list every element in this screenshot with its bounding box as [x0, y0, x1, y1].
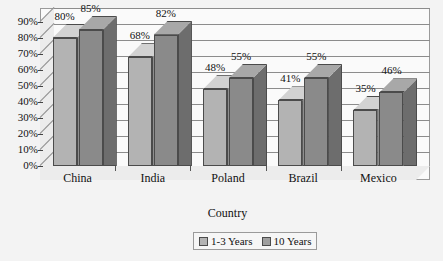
- x-axis-tick: [115, 166, 116, 171]
- bar-china-series2[interactable]: [79, 30, 103, 166]
- y-axis-tick-mark: [38, 150, 43, 151]
- x-axis-tick: [266, 166, 267, 171]
- bar-value-label: 41%: [280, 73, 300, 84]
- bar-brazil-series1[interactable]: [278, 100, 302, 166]
- y-axis-tick-label: 60%: [0, 64, 38, 75]
- bar-india-series2[interactable]: [154, 35, 178, 166]
- legend-swatch-icon-series2: [262, 237, 271, 246]
- y-axis-tick-label: 10%: [0, 144, 38, 155]
- y-axis-tick-mark: [38, 38, 43, 39]
- bar-side: [403, 78, 417, 166]
- bar-face: [304, 78, 328, 166]
- bar-china-series1[interactable]: [53, 38, 77, 166]
- bar-face: [229, 78, 253, 166]
- y-axis-tick-label: 80%: [0, 32, 38, 43]
- legend-label-series2: 10 Years: [274, 235, 312, 247]
- bar-value-label: 68%: [130, 30, 150, 41]
- y-axis-tick-mark: [38, 134, 43, 135]
- bar-value-label: 85%: [81, 3, 101, 14]
- bar-poland-series1[interactable]: [203, 89, 227, 166]
- legend-item-1: 1-3 Years: [199, 235, 253, 247]
- y-axis-tick-label: 70%: [0, 48, 38, 59]
- bar-side: [178, 21, 192, 166]
- bar-mexico-series2[interactable]: [379, 92, 403, 166]
- bar-value-label: 80%: [55, 11, 75, 22]
- bar-face: [154, 35, 178, 166]
- bar-value-label: 55%: [231, 51, 251, 62]
- bar-value-label: 55%: [306, 51, 326, 62]
- x-axis-tick: [190, 166, 191, 171]
- y-axis-tick-mark: [38, 70, 43, 71]
- y-axis-tick-mark: [38, 86, 43, 87]
- x-axis-category-label: Poland: [190, 172, 265, 185]
- bar-face: [53, 38, 77, 166]
- bar-face: [79, 30, 103, 166]
- bar-mexico-series1[interactable]: [353, 110, 377, 166]
- bar-side: [103, 16, 117, 166]
- bars-layer: 80%85%68%82%48%55%41%55%35%46%: [40, 8, 430, 180]
- chart-legend: 1-3 Years 10 Years: [193, 232, 317, 250]
- bar-india-series1[interactable]: [128, 57, 152, 166]
- y-axis-tick-mark: [38, 166, 43, 167]
- bar-value-label: 35%: [355, 83, 375, 94]
- y-axis-tick-label: 90%: [0, 16, 38, 27]
- legend-item-2: 10 Years: [262, 235, 312, 247]
- y-axis-tick-label: 0%: [0, 160, 38, 171]
- bar-side: [328, 64, 342, 166]
- y-axis-tick-label: 40%: [0, 96, 38, 107]
- y-axis-tick-mark: [38, 22, 43, 23]
- x-axis-category-label: Brazil: [266, 172, 341, 185]
- legend-swatch-icon-series1: [199, 237, 208, 246]
- y-axis-tick-label: 20%: [0, 128, 38, 139]
- x-axis-tick: [341, 166, 342, 171]
- bar-face: [128, 57, 152, 166]
- bar-face: [353, 110, 377, 166]
- bar-chart: 80%85%68%82%48%55%41%55%35%46% 0%10%20%3…: [0, 0, 443, 261]
- x-axis-category-label: Mexico: [341, 172, 416, 185]
- bar-value-label: 48%: [205, 62, 225, 73]
- bar-side: [253, 64, 267, 166]
- bar-face: [379, 92, 403, 166]
- bar-face: [203, 89, 227, 166]
- y-axis-tick-mark: [38, 54, 43, 55]
- x-axis-category-label: India: [115, 172, 190, 185]
- x-axis-category-label: China: [40, 172, 115, 185]
- legend-label-series1: 1-3 Years: [211, 235, 253, 247]
- bar-poland-series2[interactable]: [229, 78, 253, 166]
- bar-face: [278, 100, 302, 166]
- plot-area: 80%85%68%82%48%55%41%55%35%46%: [40, 8, 430, 180]
- bar-brazil-series2[interactable]: [304, 78, 328, 166]
- y-axis-tick-mark: [38, 102, 43, 103]
- x-axis-title: Country: [6, 206, 443, 221]
- y-axis-tick-mark: [38, 118, 43, 119]
- bar-value-label: 82%: [156, 8, 176, 19]
- y-axis-tick-label: 50%: [0, 80, 38, 91]
- y-axis-tick-label: 30%: [0, 112, 38, 123]
- bar-value-label: 46%: [381, 65, 401, 76]
